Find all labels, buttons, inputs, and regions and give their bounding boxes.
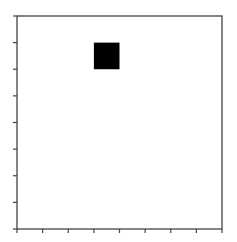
filled-cell xyxy=(94,43,120,70)
chart xyxy=(0,0,237,242)
filled-cells xyxy=(94,43,120,70)
